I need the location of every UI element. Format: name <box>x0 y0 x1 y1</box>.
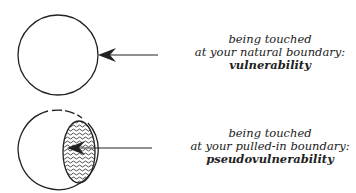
pulled-in-boundary-caption: being touched at your pulled-in boundary… <box>185 127 355 166</box>
outer-boundary-dashed-segment <box>52 110 82 118</box>
natural-boundary-caption: being touched at your natural boundary: … <box>190 33 350 72</box>
natural-boundary-figure <box>18 15 158 95</box>
term-pseudovulnerability: pseudovulnerability <box>185 153 355 166</box>
pulled-in-boundary-figure <box>18 110 152 190</box>
term-vulnerability: vulnerability <box>190 59 350 72</box>
natural-boundary-circle <box>18 15 98 95</box>
